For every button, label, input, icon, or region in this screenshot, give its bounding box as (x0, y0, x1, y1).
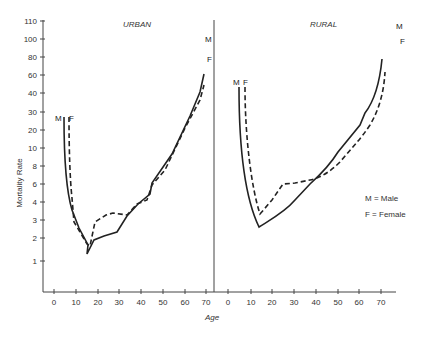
x-tick-label: 10 (247, 298, 256, 307)
y-tick-label: 40 (28, 89, 37, 98)
y-tick-label: 100 (24, 35, 38, 44)
y-tick-label: 8 (33, 162, 38, 171)
x-tick-labels-rural: 0 10 20 30 40 50 60 70 (226, 298, 386, 307)
x-tick-label: 30 (290, 298, 299, 307)
urban-female-start-label: F (69, 114, 74, 123)
urban-male-curve (64, 74, 204, 254)
x-tick-label: 0 (226, 298, 231, 307)
x-tick-label: 70 (202, 298, 211, 307)
legend-male: M = Male (365, 194, 399, 203)
x-tick-labels-urban: 0 10 20 30 40 50 60 70 (52, 298, 211, 307)
rural-female-start-label: F (243, 78, 248, 87)
panel-title-urban: URBAN (123, 20, 151, 29)
x-tick-label: 60 (181, 298, 190, 307)
x-axis-title: Age (204, 313, 220, 322)
y-tick-label: 20 (28, 126, 37, 135)
rural-female-curve (245, 72, 385, 214)
y-tick-label: 10 (28, 144, 37, 153)
y-tick-label: 80 (28, 53, 37, 62)
legend: M = Male F = Female (365, 194, 406, 219)
x-tick-label: 50 (159, 298, 168, 307)
y-tick-label: 2 (33, 234, 38, 243)
x-tick-label: 20 (94, 298, 103, 307)
urban-male-end-label: M (205, 35, 212, 44)
x-tick-label: 40 (137, 298, 146, 307)
y-tick-label: 1 (33, 257, 38, 266)
rural-male-curve (239, 59, 382, 227)
x-tick-label: 0 (52, 298, 57, 307)
y-tick-label: 6 (33, 180, 38, 189)
urban-male-start-label: M (55, 114, 62, 123)
y-tick-label: 60 (28, 71, 37, 80)
rural-male-end-label: M (396, 22, 403, 31)
y-tick-label: 4 (33, 198, 38, 207)
x-tick-label: 20 (268, 298, 277, 307)
y-tick-label: 3 (33, 216, 38, 225)
panel-title-rural: RURAL (310, 20, 337, 29)
x-tick-label: 30 (115, 298, 124, 307)
urban-female-end-label: F (207, 55, 212, 64)
y-tick-labels: 110 100 80 60 40 30 20 10 8 6 4 3 2 1 (24, 17, 38, 266)
urban-female-curve (69, 85, 204, 246)
x-tick-label: 10 (72, 298, 81, 307)
x-tick-label: 40 (312, 298, 321, 307)
rural-female-end-label: F (400, 37, 405, 46)
legend-female: F = Female (365, 210, 406, 219)
y-tick-label: 30 (28, 108, 37, 117)
mortality-chart: 110 100 80 60 40 30 20 10 8 6 4 3 2 1 Mo… (0, 0, 423, 338)
x-tick-label: 70 (377, 298, 386, 307)
x-tick-label: 60 (355, 298, 364, 307)
y-tick-label: 110 (24, 17, 37, 26)
rural-male-start-label: M (233, 78, 240, 87)
y-axis-title: Mortality Rate (15, 158, 24, 208)
x-tick-label: 50 (334, 298, 343, 307)
